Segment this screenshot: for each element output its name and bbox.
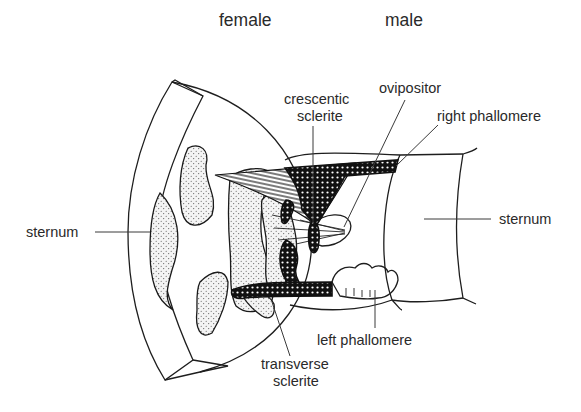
label-left-phallomere: left phallomere (317, 332, 412, 348)
label-crescentic-sclerite-2: sclerite (297, 108, 343, 124)
genitalia-diagram: female male sternum (0, 0, 581, 412)
label-right-phallomere: right phallomere (437, 108, 541, 124)
label-sternum-left: sternum (26, 224, 78, 240)
header-female: female (219, 10, 272, 30)
header-male: male (385, 10, 423, 30)
label-transverse-sclerite-2: sclerite (273, 373, 319, 389)
label-sternum-right: sternum (499, 211, 551, 227)
phallomere-lobes (346, 288, 370, 297)
right-phallomere-leader (396, 125, 438, 166)
label-crescentic-sclerite-1: crescentic (284, 91, 349, 107)
label-ovipositor: ovipositor (379, 80, 441, 96)
female-terminalia (128, 80, 312, 380)
transverse-sclerite-leader (272, 302, 290, 356)
label-transverse-sclerite-1: transverse (261, 356, 329, 372)
